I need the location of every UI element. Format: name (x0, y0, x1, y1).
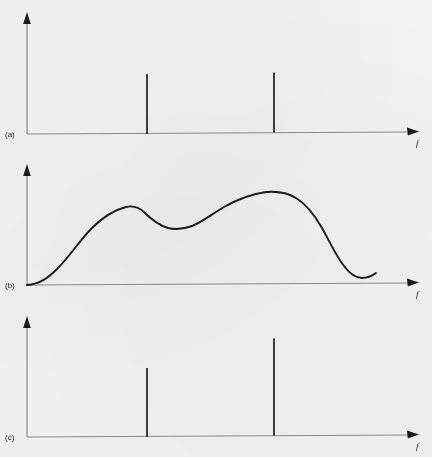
panel-a: (a) f (0, 0, 432, 152)
panel-a-plot: (a) f (0, 0, 432, 152)
spectrum-curve (27, 192, 376, 285)
panel-c: (c) f (0, 310, 432, 457)
right-arrow-icon (407, 431, 419, 439)
panel-c-x-axis (27, 435, 410, 437)
panel-a-x-axis-label: f (416, 138, 420, 148)
panel-b-label: (b) (5, 281, 15, 290)
up-arrow-icon (23, 316, 31, 328)
right-arrow-icon (407, 279, 419, 287)
up-arrow-icon (23, 12, 31, 24)
up-arrow-icon (23, 164, 31, 176)
panel-b-x-axis (27, 283, 410, 285)
panel-b: (b) f (0, 150, 432, 310)
right-arrow-icon (407, 128, 419, 136)
panel-c-label: (c) (5, 433, 15, 442)
panel-a-x-axis (27, 132, 410, 134)
panel-b-x-axis-label: f (416, 289, 420, 299)
panel-b-plot: (b) f (0, 150, 432, 310)
panel-c-x-axis-label: f (416, 441, 420, 451)
panel-a-label: (a) (5, 130, 15, 139)
signal-spectrum-figure: (a) f (b) f (0, 0, 432, 457)
panel-c-plot: (c) f (0, 310, 432, 457)
